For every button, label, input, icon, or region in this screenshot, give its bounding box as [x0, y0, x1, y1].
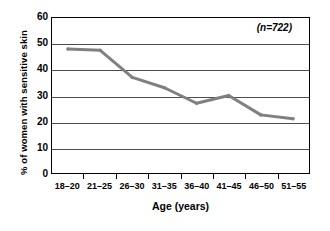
- x-tick-label: 51–55: [281, 181, 306, 191]
- data-point: [259, 113, 263, 117]
- x-axis-title: Age (years): [51, 200, 310, 212]
- x-tick-mark: [83, 174, 84, 179]
- x-tick-label: 21–25: [87, 181, 112, 191]
- data-point: [163, 86, 167, 90]
- x-tick-mark: [245, 174, 246, 179]
- y-tick-label: 0: [42, 169, 48, 179]
- data-point: [195, 101, 199, 105]
- x-tick-label: 31–35: [152, 181, 177, 191]
- series-polyline: [68, 49, 293, 119]
- y-tick-label: 10: [37, 143, 48, 153]
- plot-area: (n=722): [51, 17, 310, 174]
- y-tick-label: 50: [37, 38, 48, 48]
- y-tick-label: 30: [37, 91, 48, 101]
- data-point: [66, 47, 70, 51]
- data-point: [291, 117, 295, 121]
- data-line-series: [52, 18, 309, 173]
- data-point: [98, 49, 102, 53]
- x-tick-label: 36–40: [184, 181, 209, 191]
- y-tick-label: 20: [37, 117, 48, 127]
- x-tick-mark: [116, 174, 117, 179]
- x-axis-ticks: [51, 174, 310, 180]
- x-tick-mark: [181, 174, 182, 179]
- chart-container: % of women with sensitive skin 010203040…: [0, 0, 330, 231]
- x-tick-label: 18–20: [55, 181, 80, 191]
- x-axis-tick-labels: 18–2021–2526–3031–3536–4041–4546–5051–55: [51, 181, 310, 195]
- data-point: [131, 76, 135, 80]
- x-tick-mark: [213, 174, 214, 179]
- x-tick-mark: [278, 174, 279, 179]
- y-tick-label: 40: [37, 64, 48, 74]
- data-point: [227, 94, 231, 98]
- y-tick-label: 60: [37, 12, 48, 22]
- x-tick-label: 46–50: [249, 181, 274, 191]
- x-tick-label: 41–45: [217, 181, 242, 191]
- y-axis-tick-labels: 0102030405060: [20, 11, 48, 179]
- x-tick-label: 26–30: [119, 181, 144, 191]
- x-tick-mark: [148, 174, 149, 179]
